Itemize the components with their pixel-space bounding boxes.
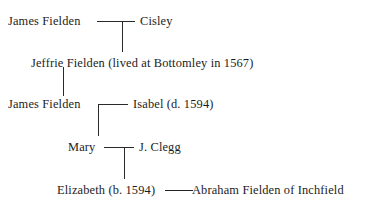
marriage-line-gen4: [104, 147, 134, 148]
person-mary: Mary: [68, 140, 95, 154]
person-james-fielden-gen1: James Fielden: [8, 14, 81, 28]
descent-line-gen3-to-gen4: [98, 105, 99, 136]
person-james-fielden-gen3: James Fielden: [8, 97, 81, 111]
marriage-line-gen5: [165, 190, 193, 191]
marriage-line-gen3: [98, 104, 128, 105]
descent-line-gen2-to-gen3: [63, 67, 64, 96]
person-j-clegg: J. Clegg: [139, 140, 181, 154]
descent-line-gen4-to-gen5: [124, 148, 125, 179]
descent-line-gen1-to-gen2: [122, 22, 123, 52]
person-elizabeth: Elizabeth (b. 1594): [57, 183, 155, 197]
person-jeffrie-fielden: Jeffrie Fielden (lived at Bottomley in 1…: [31, 56, 253, 70]
person-isabel: Isabel (d. 1594): [133, 97, 214, 111]
family-tree-diagram: James Fielden Cisley Jeffrie Fielden (li…: [0, 0, 368, 207]
marriage-line-gen1: [97, 21, 135, 22]
person-abraham-fielden: Abraham Fielden of Inchfield: [192, 183, 344, 197]
person-cisley: Cisley: [140, 14, 173, 28]
